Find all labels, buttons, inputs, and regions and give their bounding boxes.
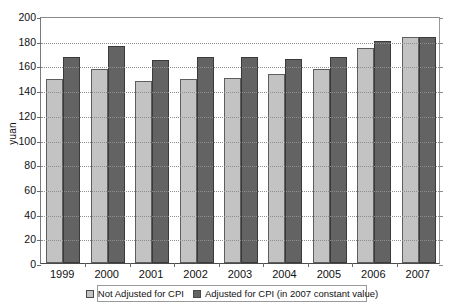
- y-tickmark-right-160: [439, 67, 443, 68]
- bar-1999-series2: [63, 57, 80, 263]
- y-tickmark-0: [37, 265, 41, 266]
- bar-2003-series1: [224, 78, 241, 263]
- bar-2004-series2: [285, 59, 302, 263]
- y-tickmark-right-140: [439, 92, 443, 93]
- y-tickmark-160: [37, 67, 41, 68]
- bar-group-2006: [352, 18, 396, 263]
- x-tick-label-2007: 2007: [396, 268, 440, 280]
- y-tickmark-right-20: [439, 240, 443, 241]
- bar-2001-series2: [152, 60, 169, 263]
- x-tick-label-2003: 2003: [218, 268, 262, 280]
- x-axis-tick-labels: 199920002001200220032004200520062007: [40, 268, 440, 284]
- bar-chart: yuan 200180160140120100806040200 1999200…: [0, 0, 449, 308]
- x-tick-label-2001: 2001: [129, 268, 173, 280]
- bar-1999-series1: [46, 79, 63, 263]
- bar-group-1999: [41, 18, 85, 263]
- y-tick-label-120: 120: [2, 111, 36, 121]
- x-tick-label-2004: 2004: [262, 268, 306, 280]
- bar-2001-series1: [135, 81, 152, 263]
- bar-group-2007: [397, 18, 441, 263]
- y-tick-label-20: 20: [2, 234, 36, 244]
- y-tick-label-60: 60: [2, 185, 36, 195]
- bar-group-2001: [130, 18, 174, 263]
- x-axis-separator-2001: [130, 263, 131, 267]
- bar-2006-series1: [357, 48, 374, 263]
- y-tick-label-200: 200: [2, 12, 36, 22]
- y-tickmark-right-40: [439, 216, 443, 217]
- x-axis-separator-2003: [219, 263, 220, 267]
- x-axis-separator-2005: [308, 263, 309, 267]
- bar-2005-series2: [330, 57, 347, 263]
- y-tickmark-20: [37, 240, 41, 241]
- dark-gray-swatch-icon: [193, 290, 201, 298]
- y-tick-label-180: 180: [2, 37, 36, 47]
- plot-area: [40, 17, 440, 264]
- x-axis-separator-2007: [397, 263, 398, 267]
- y-tick-label-40: 40: [2, 210, 36, 220]
- y-tick-label-100: 100: [2, 136, 36, 146]
- y-tickmark-80: [37, 166, 41, 167]
- bar-2006-series2: [374, 41, 391, 263]
- x-axis-separator-2000: [85, 263, 86, 267]
- bar-2007-series1: [402, 37, 419, 263]
- x-tick-label-2006: 2006: [351, 268, 395, 280]
- bar-group-2002: [174, 18, 218, 263]
- y-tickmark-60: [37, 191, 41, 192]
- legend-label-1: Not Adjusted for CPI: [98, 289, 184, 299]
- bar-group-2005: [308, 18, 352, 263]
- y-tickmark-120: [37, 117, 41, 118]
- x-tick-label-2005: 2005: [307, 268, 351, 280]
- gridline-40: [41, 216, 439, 217]
- x-axis-separator-2002: [174, 263, 175, 267]
- legend-item-2: Adjusted for CPI (in 2007 constant value…: [193, 289, 378, 299]
- bar-2002-series2: [197, 57, 214, 263]
- y-tickmark-100: [37, 142, 41, 143]
- gridline-20: [41, 240, 439, 241]
- legend-label-2: Adjusted for CPI (in 2007 constant value…: [205, 289, 378, 299]
- bar-2004-series1: [268, 74, 285, 263]
- legend-item-1: Not Adjusted for CPI: [86, 289, 184, 299]
- bar-2002-series1: [180, 79, 197, 263]
- gridline-120: [41, 117, 439, 118]
- bar-group-2003: [219, 18, 263, 263]
- x-tick-label-1999: 1999: [40, 268, 84, 280]
- y-tickmark-right-80: [439, 166, 443, 167]
- x-tick-label-2002: 2002: [173, 268, 217, 280]
- y-tickmark-right-0: [439, 265, 443, 266]
- y-tickmark-40: [37, 216, 41, 217]
- x-axis-separator-2004: [263, 263, 264, 267]
- x-axis-separator-2006: [352, 263, 353, 267]
- gridline-180: [41, 43, 439, 44]
- bar-2007-series2: [419, 37, 436, 263]
- gridline-140: [41, 92, 439, 93]
- y-tickmark-right-180: [439, 43, 443, 44]
- y-tickmark-right-100: [439, 142, 443, 143]
- y-tick-label-0: 0: [2, 259, 36, 269]
- light-gray-swatch-icon: [86, 290, 94, 298]
- y-tick-label-140: 140: [2, 86, 36, 96]
- y-tick-label-80: 80: [2, 160, 36, 170]
- y-tickmark-140: [37, 92, 41, 93]
- y-tick-label-160: 160: [2, 61, 36, 71]
- y-tickmark-180: [37, 43, 41, 44]
- y-tickmark-right-120: [439, 117, 443, 118]
- y-tickmark-200: [37, 18, 41, 19]
- gridline-160: [41, 67, 439, 68]
- bars-layer: [41, 18, 439, 263]
- bar-2000-series2: [108, 46, 125, 263]
- bar-group-2004: [263, 18, 307, 263]
- y-tickmark-right-60: [439, 191, 443, 192]
- gridline-80: [41, 166, 439, 167]
- chart-legend: Not Adjusted for CPIAdjusted for CPI (in…: [97, 285, 367, 302]
- bar-2003-series2: [241, 57, 258, 263]
- gridline-60: [41, 191, 439, 192]
- x-tick-label-2000: 2000: [84, 268, 128, 280]
- gridline-100: [41, 142, 439, 143]
- bar-group-2000: [85, 18, 129, 263]
- y-tickmark-right-200: [439, 18, 443, 19]
- y-axis-tick-labels: 200180160140120100806040200: [0, 0, 36, 308]
